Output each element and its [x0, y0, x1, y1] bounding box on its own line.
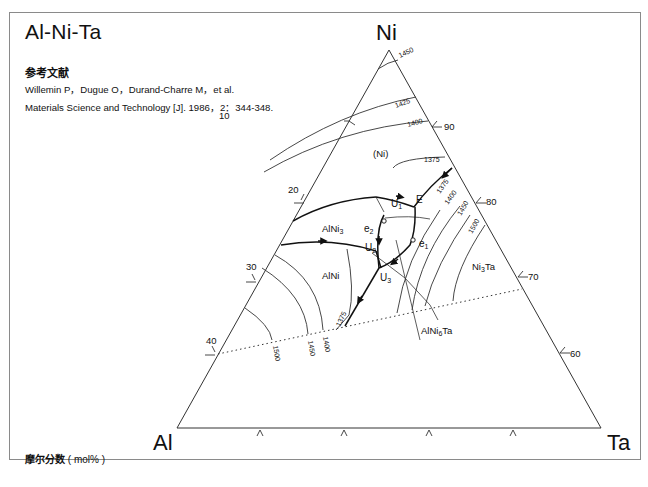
right-tick-70: 70 [528, 271, 539, 282]
isotherms-upper [264, 60, 445, 172]
isotherm-label-1400-top: 1400 [406, 117, 423, 128]
point-label-e: E [416, 194, 423, 205]
phase-label-alni6ta: AlNi6Ta [421, 325, 453, 337]
section-limit-dotted [218, 289, 522, 354]
isotherm-label-1450-alni: 1450 [307, 340, 317, 357]
point-label-e1: e1 [419, 238, 429, 250]
isotherm-label-1425: 1425 [394, 97, 411, 109]
point-label-u3: U3 [380, 272, 391, 284]
phase-label-alni3: AlNi3 [322, 223, 343, 235]
point-label-e2: e2 [364, 223, 374, 235]
left-tick-10: 10 [219, 110, 230, 121]
isotherm-label-1500-right: 1500 [467, 217, 481, 234]
point-e1-marker [411, 238, 415, 242]
point-label-u2: U2 [365, 242, 376, 254]
isotherm-label-1450-top: 1450 [397, 46, 414, 59]
phase-label-ni: (Ni) [373, 148, 388, 159]
isotherm-label-1375-top: 1375 [424, 156, 440, 163]
ternary-diagram: 10 20 30 40 90 80 70 60 1450 1425 1400 1… [0, 0, 648, 487]
left-tick-30: 30 [246, 261, 257, 272]
bottom-axis-ticks [257, 430, 516, 436]
point-label-u1: U1 [391, 198, 402, 210]
right-tick-80: 80 [486, 196, 497, 207]
composition-triangle [177, 50, 601, 428]
isotherm-label-1450-right: 1450 [456, 199, 470, 216]
left-axis-ticks [205, 121, 355, 355]
right-axis-ticks [432, 121, 570, 353]
isotherms-alni [245, 249, 352, 340]
left-tick-20: 20 [288, 184, 299, 195]
right-tick-90: 90 [444, 121, 455, 132]
point-e2-marker [382, 219, 386, 223]
right-tick-60: 60 [570, 348, 581, 359]
phase-label-alni: AlNi [322, 270, 339, 281]
left-tick-40: 40 [206, 335, 217, 346]
isotherm-label-1400-right: 1400 [443, 189, 458, 206]
isotherm-label-1500-alni: 1500 [272, 345, 282, 362]
phase-label-ni3ta: Ni3Ta [472, 261, 496, 273]
isotherm-label-1400-alni: 1400 [322, 336, 332, 353]
